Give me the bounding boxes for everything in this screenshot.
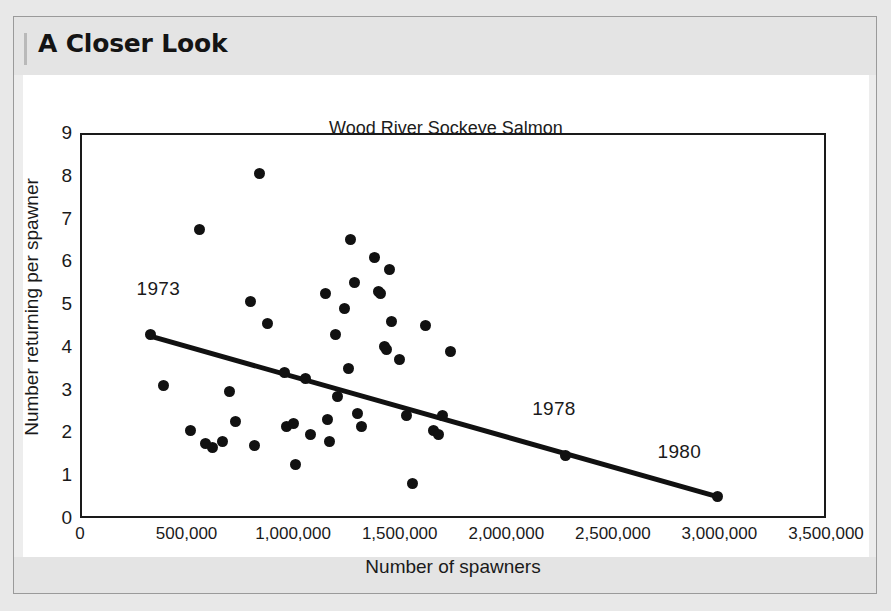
scatter-point	[381, 344, 392, 355]
y-tick-label: 6	[46, 250, 72, 272]
y-tick-label: 5	[46, 293, 72, 315]
scatter-point	[433, 429, 444, 440]
scatter-point	[332, 391, 343, 402]
y-axis-ticks: 0123456789	[40, 133, 72, 518]
scatter-point	[384, 264, 395, 275]
year-annotation: 1973	[137, 278, 180, 300]
x-tick-label: 1,000,000	[255, 524, 331, 544]
y-axis-label: Number returning per spawner	[21, 157, 43, 457]
scatter-point	[356, 421, 367, 432]
scatter-point	[437, 410, 448, 421]
header-accent-rule	[24, 33, 27, 65]
trend-line	[80, 133, 826, 518]
x-axis-label: Number of spawners	[80, 556, 826, 578]
x-tick-label: 3,500,000	[788, 524, 864, 544]
year-annotation: 1978	[532, 398, 575, 420]
y-tick-label: 3	[46, 379, 72, 401]
scatter-point	[401, 410, 412, 421]
scatter-point	[262, 318, 273, 329]
scatter-point	[288, 418, 299, 429]
x-tick-label: 2,500,000	[575, 524, 651, 544]
y-tick-label: 4	[46, 336, 72, 358]
scatter-point	[158, 380, 169, 391]
scatter-point	[320, 288, 331, 299]
scatter-point	[207, 442, 218, 453]
scatter-point	[194, 224, 205, 235]
x-tick-label: 2,000,000	[468, 524, 544, 544]
scatter-point	[375, 288, 386, 299]
scatter-point	[145, 329, 156, 340]
x-tick-label: 3,000,000	[682, 524, 758, 544]
scatter-point	[305, 429, 316, 440]
y-tick-label: 1	[46, 464, 72, 486]
scatter-point	[369, 252, 380, 263]
scatter-point	[343, 363, 354, 374]
scatter-point	[330, 329, 341, 340]
x-tick-label: 1,500,000	[362, 524, 438, 544]
y-tick-label: 2	[46, 421, 72, 443]
scatter-point	[445, 346, 456, 357]
y-tick-label: 8	[46, 165, 72, 187]
plot-surface: 197319781980	[80, 133, 826, 518]
scatter-point	[224, 386, 235, 397]
scatter-point	[712, 491, 723, 502]
page-background: A Closer Look Wood River Sockeye Salmon …	[0, 0, 891, 611]
scatter-point	[322, 414, 333, 425]
scatter-point	[339, 303, 350, 314]
y-tick-label: 7	[46, 208, 72, 230]
x-axis-ticks: 0500,0001,000,0001,500,0002,000,0002,500…	[0, 524, 891, 548]
scatter-point	[420, 320, 431, 331]
scatter-point	[386, 316, 397, 327]
scatter-point	[217, 436, 228, 447]
x-tick-label: 500,000	[156, 524, 217, 544]
scatter-point	[324, 436, 335, 447]
header-band: A Closer Look	[14, 17, 876, 75]
scatter-point	[254, 168, 265, 179]
y-tick-label: 9	[46, 122, 72, 144]
scatter-point	[290, 459, 301, 470]
scatter-point	[249, 440, 260, 451]
year-annotation: 1980	[658, 441, 701, 463]
x-tick-label: 0	[75, 524, 84, 544]
page-title: A Closer Look	[38, 29, 227, 58]
scatter-point	[352, 408, 363, 419]
